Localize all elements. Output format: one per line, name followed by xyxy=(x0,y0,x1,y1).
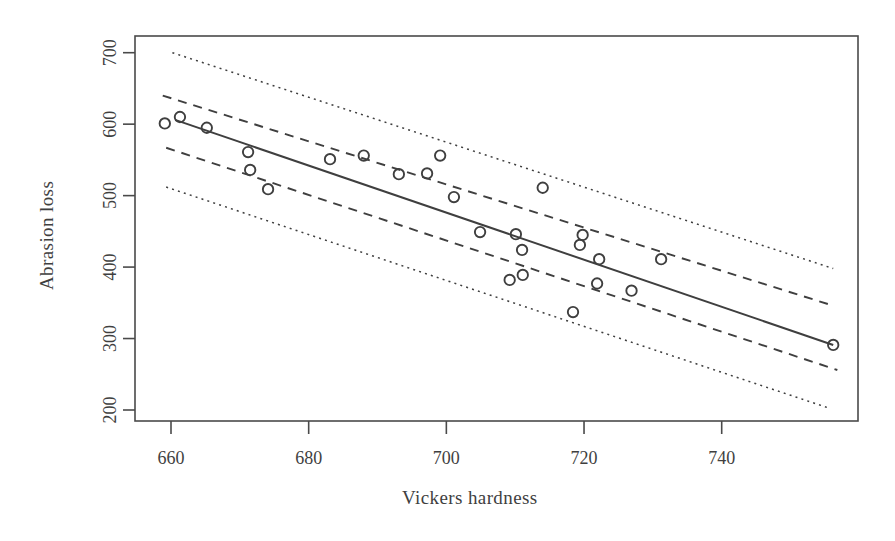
data-point xyxy=(263,184,273,194)
prediction-lower xyxy=(166,187,830,409)
scatter-plot-canvas: 200300400500600700 660680700720740 xyxy=(0,0,895,541)
prediction-upper xyxy=(172,53,833,269)
data-point xyxy=(592,278,602,288)
y-tick-label: 300 xyxy=(100,325,120,352)
y-tick-label: 600 xyxy=(100,111,120,138)
confidence-upper xyxy=(163,96,833,306)
y-axis-tick-labels: 200300400500600700 xyxy=(100,39,120,423)
x-tick-label: 700 xyxy=(433,448,460,468)
data-point xyxy=(435,150,445,160)
data-point xyxy=(245,165,255,175)
x-axis-ticks xyxy=(171,421,722,434)
data-point xyxy=(504,275,514,285)
data-point xyxy=(656,254,666,264)
data-point xyxy=(568,307,578,317)
data-point xyxy=(575,240,585,250)
plot-frame xyxy=(135,36,858,421)
confidence-interval-bands xyxy=(163,96,838,370)
plot-border xyxy=(135,36,858,421)
x-tick-label: 740 xyxy=(708,448,735,468)
data-point xyxy=(449,192,459,202)
x-tick-label: 680 xyxy=(295,448,322,468)
fit-line xyxy=(175,120,833,345)
y-axis-title: Abrasion loss xyxy=(36,0,58,290)
data-point xyxy=(422,168,432,178)
data-point xyxy=(626,285,636,295)
data-point xyxy=(518,270,528,280)
data-point xyxy=(538,183,548,193)
x-axis-title: Vickers hardness xyxy=(402,487,538,509)
regression-line xyxy=(175,120,833,345)
y-axis-ticks xyxy=(123,53,135,410)
data-point xyxy=(475,227,485,237)
y-tick-label: 700 xyxy=(100,39,120,66)
x-tick-label: 660 xyxy=(158,448,185,468)
data-point xyxy=(594,254,604,264)
chart-figure: 200300400500600700 660680700720740 Abras… xyxy=(0,0,895,541)
data-point xyxy=(517,245,527,255)
x-tick-label: 720 xyxy=(571,448,598,468)
data-point xyxy=(243,147,253,157)
y-tick-label: 500 xyxy=(100,182,120,209)
data-point xyxy=(325,154,335,164)
x-axis-tick-labels: 660680700720740 xyxy=(158,448,736,468)
data-point xyxy=(577,230,587,240)
confidence-lower xyxy=(166,148,837,370)
y-tick-label: 400 xyxy=(100,254,120,281)
y-tick-label: 200 xyxy=(100,397,120,424)
data-point xyxy=(160,118,170,128)
